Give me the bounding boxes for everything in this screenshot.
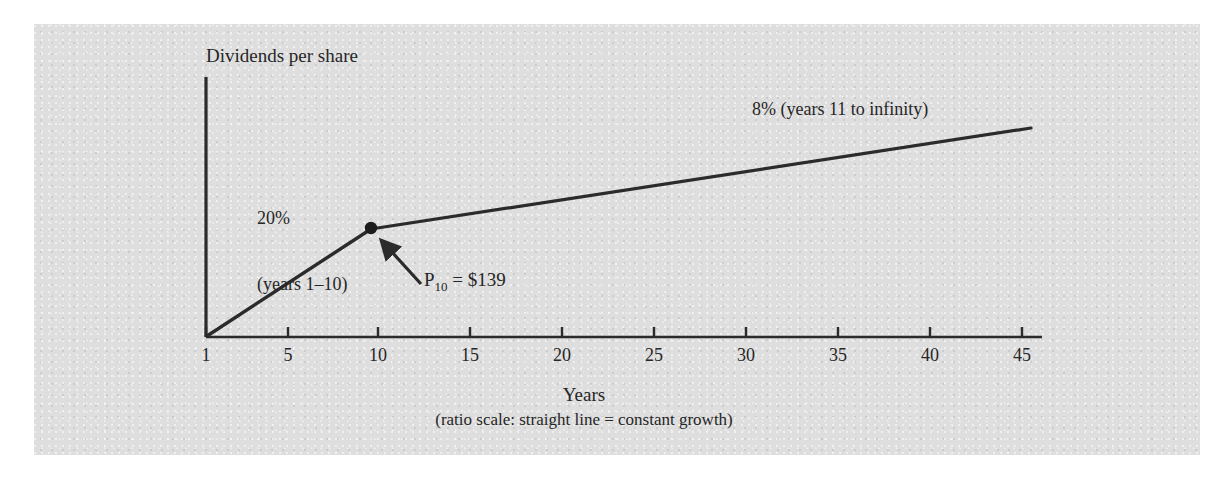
- chart-canvas: [0, 0, 1232, 481]
- x-tick-label-45: 45: [1013, 345, 1031, 366]
- x-tick-label-25: 25: [645, 345, 663, 366]
- annotation-growth-phase-2: 8% (years 11 to infinity): [752, 99, 928, 121]
- x-axis-caption: (ratio scale: straight line = constant g…: [0, 410, 1200, 431]
- p10-subscript: 10: [435, 279, 448, 294]
- p10-value: = $139: [448, 269, 506, 290]
- x-tick-label-30: 30: [737, 345, 755, 366]
- x-tick-label-35: 35: [829, 345, 847, 366]
- growth-line-phase-2: [371, 128, 1031, 229]
- annotation-growth-phase-1-years: (years 1–10): [257, 274, 347, 296]
- figure-container: Dividends per share 20% (years 1–10) 8% …: [0, 0, 1232, 481]
- annotation-growth-phase-1-rate: 20%: [257, 208, 347, 230]
- annotation-growth-phase-1: 20% (years 1–10): [257, 164, 347, 340]
- x-tick-label-20: 20: [553, 345, 571, 366]
- x-axis-title: Years: [0, 383, 1200, 406]
- x-tick-label-1: 1: [202, 345, 211, 366]
- x-tick-label-40: 40: [921, 345, 939, 366]
- p10-marker-dot: [365, 222, 377, 234]
- x-tick-label-10: 10: [369, 345, 387, 366]
- p10-callout-arrow: [381, 240, 421, 284]
- x-tick-label-15: 15: [461, 345, 479, 366]
- p10-symbol: P: [424, 269, 435, 290]
- y-axis-title: Dividends per share: [206, 44, 358, 67]
- x-tick-label-5: 5: [284, 345, 293, 366]
- annotation-p10-price: P10 = $139: [424, 268, 506, 295]
